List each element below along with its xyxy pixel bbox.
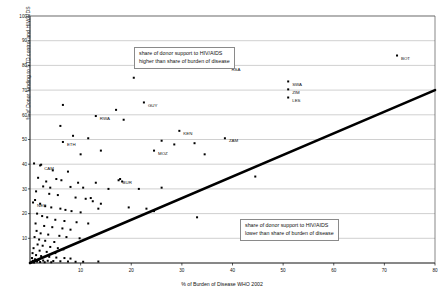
plot-area: 102030405060708090100 1020304050607080 B… (0, 0, 444, 304)
svg-text:20: 20 (22, 211, 28, 216)
svg-text:40: 40 (230, 268, 236, 273)
x-axis-ticks: 1020304050607080 (78, 263, 438, 273)
annotation-above-line: share of donor support to HIV/AIDS highe… (134, 47, 235, 69)
data-points (31, 55, 399, 264)
svg-text:NEP: NEP (37, 203, 46, 208)
svg-text:70: 70 (382, 268, 388, 273)
svg-text:80: 80 (22, 63, 28, 68)
svg-text:KEN: KEN (183, 131, 192, 136)
svg-text:10: 10 (78, 268, 84, 273)
y-axis-ticks: 102030405060708090100 (19, 14, 30, 241)
scatter-chart: % of Donor funding to STD control and HI… (0, 0, 444, 304)
svg-text:CAM: CAM (44, 166, 54, 171)
svg-text:50: 50 (281, 268, 287, 273)
svg-text:RWA: RWA (100, 116, 110, 121)
svg-text:10: 10 (22, 236, 28, 241)
svg-text:30: 30 (179, 268, 185, 273)
svg-text:90: 90 (22, 38, 28, 43)
annotation-below-line-line1: share of donor support to HIV/AIDS (245, 222, 334, 230)
svg-text:40: 40 (22, 162, 28, 167)
equal-share-line (30, 90, 435, 263)
svg-text:30: 30 (22, 187, 28, 192)
svg-text:BUR: BUR (123, 180, 132, 185)
svg-text:60: 60 (22, 113, 28, 118)
annotation-below-line-line2: lower than share of burden of disease (245, 230, 334, 238)
svg-text:ZAM: ZAM (229, 138, 239, 143)
svg-text:MOZ: MOZ (158, 151, 168, 156)
svg-text:LES: LES (292, 98, 300, 103)
svg-text:50: 50 (22, 137, 28, 142)
svg-text:70: 70 (22, 88, 28, 93)
annotation-above-line-line1: share of donor support to HIV/AIDS (139, 50, 230, 58)
svg-text:20: 20 (129, 268, 135, 273)
annotation-above-line-line2: higher than share of burden of disease (139, 58, 230, 66)
svg-text:GUY: GUY (148, 103, 158, 108)
annotation-below-line: share of donor support to HIV/AIDS lower… (240, 219, 339, 241)
point-labels: BOTRSASWAZIMLESGUYRWAKENZAMETHMOZCAMBURN… (37, 56, 410, 208)
svg-text:SWA: SWA (292, 82, 302, 87)
svg-text:BOT: BOT (401, 56, 410, 61)
svg-text:ZIM: ZIM (292, 90, 300, 95)
svg-text:ETH: ETH (67, 142, 76, 147)
svg-text:80: 80 (432, 268, 438, 273)
svg-text:60: 60 (331, 268, 337, 273)
svg-text:100: 100 (19, 14, 27, 19)
